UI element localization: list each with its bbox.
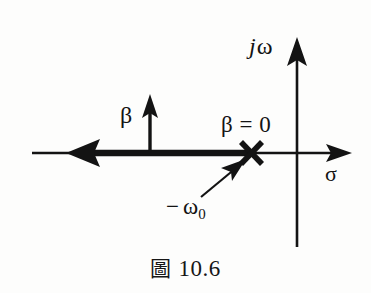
imaginary-axis-label: jω (249, 34, 272, 58)
pole-value-subscript: 0 (198, 206, 206, 222)
imaginary-axis-label-omega: ω (257, 33, 273, 59)
pole-callout-arrow-shaft (201, 168, 236, 197)
beta-direction-label: β (120, 103, 132, 127)
pole-value-omega: ω (183, 194, 198, 219)
pole-value-minus-sign: − (166, 194, 183, 219)
figure-page: jω σ β β = 0 −ω0 圖10.6 (0, 0, 371, 293)
beta-zero-label: β = 0 (221, 113, 271, 136)
figure-caption: 圖10.6 (0, 252, 371, 282)
pole-value-label: −ω0 (166, 195, 206, 222)
figure-caption-number: 10.6 (178, 256, 220, 281)
real-axis-label: σ (325, 163, 337, 185)
root-locus-plot (0, 0, 371, 293)
imaginary-axis-label-j: j (249, 33, 257, 59)
figure-caption-cjk-label: 圖 (150, 257, 178, 281)
